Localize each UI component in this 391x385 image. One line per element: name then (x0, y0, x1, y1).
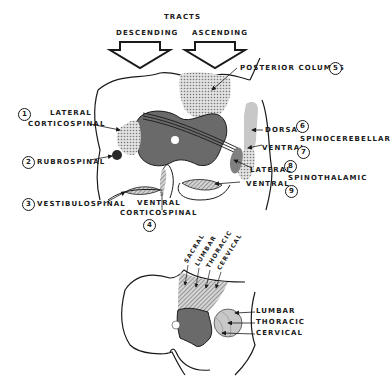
spinocerebellar-label: SPINOCEREBELLAR (300, 136, 391, 143)
lateral-spinothalamic-label: LATERAL (250, 167, 292, 174)
lateral-cervical-label: CERVICAL (256, 330, 303, 337)
tract-number-9: 9 (285, 185, 298, 198)
tract-number-4: 4 (143, 219, 156, 232)
lateral-lumbar-label: LUMBAR (256, 308, 296, 315)
vestibulospinal-label: VESTIBULOSPINAL (37, 201, 126, 208)
ascending-arrow-icon (185, 42, 245, 68)
descending-arrow-icon (110, 42, 170, 68)
ventral-corticospinal-label-2: CORTICOSPINAL (120, 210, 197, 217)
gray-matter (135, 111, 227, 166)
lateral-corticospinal-region (117, 121, 141, 156)
posterior-columns-region (179, 72, 231, 120)
ventral-spinothalamic-region (182, 179, 222, 190)
ascending-label: ASCENDING (192, 30, 248, 37)
dorsal-spinocerebellar-region (244, 102, 258, 152)
ventral-corticospinal-label-1: VENTRAL (137, 200, 181, 207)
lower-central-canal (172, 321, 180, 329)
lateral-corticospinal-label-1: LATERAL (50, 110, 92, 117)
ventral-corticospinal-region (160, 169, 166, 196)
rubrospinal-label: RUBROSPINAL (37, 159, 105, 166)
lateral-corticospinal-label-2: CORTICOSPINAL (28, 121, 105, 128)
lateral-thoracic-label: THORACIC (256, 319, 305, 326)
central-canal (171, 136, 179, 144)
ventral-spinothalamic-label: VENTRAL (246, 181, 290, 188)
descending-label: DESCENDING (116, 30, 178, 37)
tracts-title: TRACTS (164, 14, 201, 21)
lower-gray-matter (177, 308, 212, 346)
tract-number-7: 7 (297, 146, 310, 159)
rubrospinal-region (112, 150, 122, 160)
spinothalamic-label: SPINOTHALAMIC (288, 175, 368, 182)
tract-number-6: 6 (296, 120, 309, 133)
tract-number-3: 3 (22, 198, 35, 211)
tract-number-2: 2 (22, 156, 35, 169)
tract-number-5: 5 (329, 62, 342, 75)
